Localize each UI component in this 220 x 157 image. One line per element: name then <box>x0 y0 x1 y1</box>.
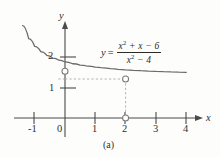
x-tick-label-2: 2 <box>122 124 127 135</box>
figure-panel-a: y x -1 0 1 2 3 4 1 2 y = x2 + x − 6 x2 −… <box>0 0 220 157</box>
numerator-rest: + x − 6 <box>126 41 159 51</box>
x-tick-label-4: 4 <box>183 124 188 135</box>
y-axis-label: y <box>59 11 64 22</box>
hole-at-x-0 <box>62 68 68 74</box>
guide-lines <box>57 79 125 118</box>
equation-denominator: x2 − 4 <box>125 53 154 66</box>
y-tick-label-2: 2 <box>48 51 53 62</box>
panel-label: (a) <box>103 140 114 150</box>
equation-equals-sign: = <box>108 47 114 58</box>
equation-lhs: y <box>101 47 106 58</box>
x-tick-label-0: 0 <box>57 124 62 135</box>
equation-numerator: x2 + x − 6 <box>117 39 162 52</box>
x-tick-label-minus-1: -1 <box>28 124 37 135</box>
hole-at-x-2 <box>123 76 129 82</box>
x-axis-label: x <box>206 113 211 124</box>
y-tick-label-1: 1 <box>49 83 54 94</box>
open-point-on-x-axis-at-2 <box>123 115 129 121</box>
equation-fraction: x2 + x − 6 x2 − 4 <box>117 39 162 65</box>
x-tick-label-3: 3 <box>153 124 158 135</box>
x-axis <box>14 115 203 121</box>
denominator-rest: − 4 <box>135 55 152 65</box>
equation-annotation: y = x2 + x − 6 x2 − 4 <box>101 39 161 65</box>
x-tick-label-1: 1 <box>92 124 97 135</box>
